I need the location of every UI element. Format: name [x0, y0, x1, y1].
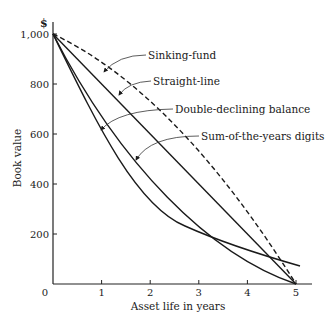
- annotation-sum-of-years-digits: Sum-of-the-years digits: [201, 130, 325, 142]
- leader-soyd: [136, 136, 199, 160]
- x-tick-label-3: 3: [196, 287, 202, 298]
- series-double-declining-balance: [53, 34, 300, 266]
- annotation-sinking-fund: Sinking-fund: [148, 49, 216, 61]
- y-axis-title: Book value: [11, 129, 23, 188]
- series-lines: [53, 34, 300, 284]
- x-tick-label-1: 1: [98, 287, 104, 298]
- x-tick-label-5: 5: [293, 287, 299, 298]
- x-tick-label-2: 2: [147, 287, 153, 298]
- y-tick-label-200: 200: [30, 229, 49, 240]
- x-axis-title: Asset life in years: [130, 300, 226, 312]
- y-tick-label-1000: 1,000: [20, 29, 49, 40]
- annotation-double-declining-balance: Double-declining balance: [175, 103, 310, 115]
- annotation-straight-line: Straight-line: [153, 75, 220, 87]
- y-tick-label-800: 800: [30, 79, 49, 90]
- leader-sinking-fund: [104, 55, 146, 72]
- book-value-chart: $ 1,000 800 600 400 200 0 1 2 3 4 5 Asse…: [0, 0, 329, 325]
- y-tick-label-400: 400: [30, 179, 49, 190]
- y-tick-label-600: 600: [30, 129, 49, 140]
- x-tick-label-0: 0: [42, 287, 48, 298]
- series-straight-line: [53, 34, 296, 284]
- x-tick-label-4: 4: [244, 287, 250, 298]
